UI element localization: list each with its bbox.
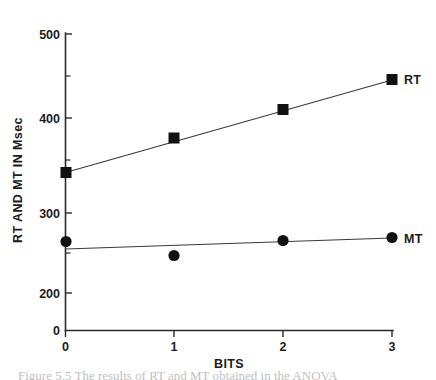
y-tick-label-200: 200 [39,287,60,301]
y-axis-title: RT AND MT IN Msec [11,117,25,243]
rt-point-1 [169,133,180,144]
x-tick-label-0: 0 [62,340,69,354]
x-tick-marks [66,331,393,338]
rt-trend-line [66,80,393,173]
x-tick-label-3: 3 [389,340,396,354]
axis-group [66,33,394,331]
series-label-mt: MT [404,232,423,246]
y-tick-label-300: 300 [39,207,60,221]
y-tick-labels: 500 400 300 200 0 [39,28,60,338]
y-tick-label-0: 0 [53,324,60,338]
rt-point-0 [61,167,72,178]
x-tick-label-1: 1 [171,340,178,354]
mt-point-1 [168,250,179,261]
figure-caption: Figure 5.5 The results of RT and MT obta… [18,368,428,380]
y-tick-marks [66,34,73,293]
rt-point-2 [278,104,289,115]
rt-point-3 [387,74,398,85]
mt-trend-line [66,238,393,249]
y-tick-label-400: 400 [39,112,60,126]
series-label-rt: RT [404,73,421,87]
mt-point-0 [60,236,71,247]
x-tick-label-2: 2 [280,340,287,354]
series-mt [60,232,397,261]
scatter-plot: 500 400 300 200 0 0 1 2 3 BITS RT AND MT… [0,0,436,380]
mt-point-3 [386,232,397,243]
x-tick-labels: 0 1 2 3 [62,340,396,354]
figure-container: 500 400 300 200 0 0 1 2 3 BITS RT AND MT… [0,0,436,380]
y-tick-label-500: 500 [39,28,60,42]
mt-point-2 [277,235,288,246]
series-rt [61,74,398,178]
